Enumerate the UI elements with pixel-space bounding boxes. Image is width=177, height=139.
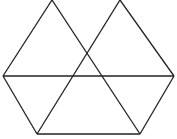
diagram-line	[140, 76, 174, 134]
diagram-line	[37, 0, 120, 134]
diagram-line	[52, 0, 140, 134]
diagram-line	[120, 0, 174, 76]
diagram-line	[3, 0, 52, 76]
hexagon-triangles-diagram	[0, 0, 177, 139]
diagram-line	[3, 76, 37, 134]
